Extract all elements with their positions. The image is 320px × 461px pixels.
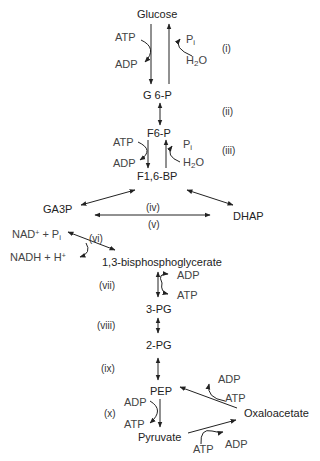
cofactor-atp-i: ATP <box>115 31 136 43</box>
node-glucose: Glucose <box>137 8 177 20</box>
step-label-x: (x) <box>104 408 116 419</box>
node-dhap: DHAP <box>233 210 264 222</box>
cofactor-atp-pepck: ATP <box>225 392 246 404</box>
cofactor-atp-pyruvate-carboxylase: ATP <box>193 443 214 455</box>
node-oxaloacetate: Oxaloacetate <box>244 407 309 419</box>
step-label-iii: (iii) <box>222 145 235 156</box>
cofactor-adp-x: ADP <box>124 396 147 408</box>
node-pep: PEP <box>150 385 172 397</box>
step-label-ix: (ix) <box>101 363 115 374</box>
step-label-ii: (ii) <box>222 106 233 117</box>
cofactor-atp-vii: ATP <box>177 289 198 301</box>
cofactor-adp-i: ADP <box>115 58 138 70</box>
node-f16bp: F1,6-BP <box>137 170 177 182</box>
node-f6p: F6-P <box>147 127 171 139</box>
node-3pg: 3-PG <box>146 303 172 315</box>
cofactor-h2o-iii: H2O <box>183 156 204 172</box>
cofactor-adp-pyruvate-carboxylase: ADP <box>225 438 248 450</box>
cofactor-pi-iii: Pi <box>183 138 192 154</box>
node-g6p: G 6-P <box>143 89 172 101</box>
step-label-vi: (vi) <box>89 233 103 244</box>
cofactor-nadh-h: NADH + H+ <box>10 250 66 263</box>
cofactor-adp-iii: ADP <box>113 157 136 169</box>
cofactor-atp-iii: ATP <box>113 136 134 148</box>
node-1-3-bisphosphoglycerate: 1,3-bisphosphoglycerate <box>102 256 222 268</box>
step-label-viii: (viii) <box>97 320 115 331</box>
cofactor-adp-vii: ADP <box>177 269 200 281</box>
step-label-v: (v) <box>148 219 160 230</box>
node-2pg: 2-PG <box>146 339 172 351</box>
step-label-vii: (vii) <box>99 280 115 291</box>
node-ga3p: GA3P <box>43 203 72 215</box>
cofactor-nad-pi: NAD+ + Pi <box>12 227 61 244</box>
cofactor-h2o-i: H2O <box>186 54 207 70</box>
cofactor-adp-pepck: ADP <box>218 373 241 385</box>
step-label-i: (i) <box>222 43 231 54</box>
cofactor-atp-x: ATP <box>124 418 145 430</box>
node-pyruvate: Pyruvate <box>138 431 181 443</box>
cofactor-pi-i: Pi <box>186 33 195 49</box>
step-label-iv: (iv) <box>146 202 160 213</box>
